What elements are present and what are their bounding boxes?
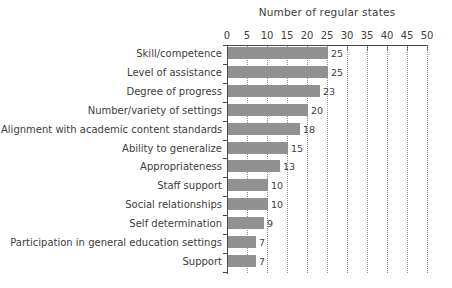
bar (228, 123, 300, 135)
chart-title: Number of regular states (227, 6, 427, 18)
y-axis-tick (223, 64, 227, 65)
category-label: Social relationships (1, 199, 227, 210)
bar-value-label: 7 (259, 256, 265, 267)
category-label: Ability to generalize (1, 143, 227, 154)
bar (228, 142, 288, 154)
bar (228, 85, 320, 97)
gridline (427, 46, 428, 273)
category-label: Self determination (1, 218, 227, 229)
x-axis-tick-label: 5 (244, 30, 250, 41)
bar (228, 47, 328, 59)
bar-chart: Number of regular states Skill/competenc… (0, 0, 452, 288)
bar-value-label: 25 (331, 48, 343, 59)
bar-value-label: 20 (311, 105, 323, 116)
x-axis-tick-label: 15 (281, 30, 294, 41)
bar-value-label: 10 (271, 199, 283, 210)
category-label: Skill/competence (1, 48, 227, 59)
y-axis-tick (223, 102, 227, 103)
bar-value-label: 23 (323, 86, 335, 97)
x-axis-tick-label: 35 (361, 30, 374, 41)
x-axis-tick-label: 50 (421, 30, 434, 41)
y-axis-tick (223, 234, 227, 235)
bar (228, 66, 328, 78)
x-axis-tick-label: 10 (261, 30, 274, 41)
x-axis-tick-label: 25 (321, 30, 334, 41)
bar-value-label: 13 (283, 161, 295, 172)
y-axis-tick (223, 158, 227, 159)
bar-value-label: 18 (303, 124, 315, 135)
category-axis-labels: Skill/competenceLevel of assistanceDegre… (0, 45, 227, 272)
x-axis-tick-label: 30 (341, 30, 354, 41)
gridline (327, 46, 328, 273)
plot-area: 0510152025303540455025252320181513101097… (227, 45, 427, 272)
y-axis-tick (223, 177, 227, 178)
x-axis-tick-label: 45 (401, 30, 414, 41)
bar (228, 104, 308, 116)
y-axis-tick (223, 215, 227, 216)
y-axis-tick (223, 196, 227, 197)
bar-value-label: 25 (331, 67, 343, 78)
bar (228, 198, 268, 210)
gridline (287, 46, 288, 273)
gridline (387, 46, 388, 273)
category-label: Degree of progress (1, 86, 227, 97)
category-label: Number/variety of settings (1, 105, 227, 116)
y-axis-tick (223, 45, 227, 46)
bar (228, 217, 264, 229)
category-label: Alignment with academic content standard… (1, 124, 227, 135)
bar-value-label: 15 (291, 143, 303, 154)
gridline (347, 46, 348, 273)
category-label: Support (1, 256, 227, 267)
y-axis-tick (223, 253, 227, 254)
bar (228, 160, 280, 172)
y-axis-tick (223, 272, 227, 273)
category-label: Staff support (1, 180, 227, 191)
bar (228, 179, 268, 191)
category-label: Appropriateness (1, 161, 227, 172)
bar-value-label: 7 (259, 237, 265, 248)
gridline (407, 46, 408, 273)
y-axis-tick (223, 83, 227, 84)
bar (228, 236, 256, 248)
x-axis-tick-label: 40 (381, 30, 394, 41)
x-axis-tick-label: 0 (224, 30, 230, 41)
bar (228, 255, 256, 267)
bar-value-label: 9 (267, 218, 273, 229)
y-axis-tick (223, 121, 227, 122)
category-label: Participation in general education setti… (1, 237, 227, 248)
x-axis-tick-label: 20 (301, 30, 314, 41)
gridline (307, 46, 308, 273)
bar-value-label: 10 (271, 180, 283, 191)
category-label: Level of assistance (1, 67, 227, 78)
gridline (367, 46, 368, 273)
y-axis-tick (223, 140, 227, 141)
